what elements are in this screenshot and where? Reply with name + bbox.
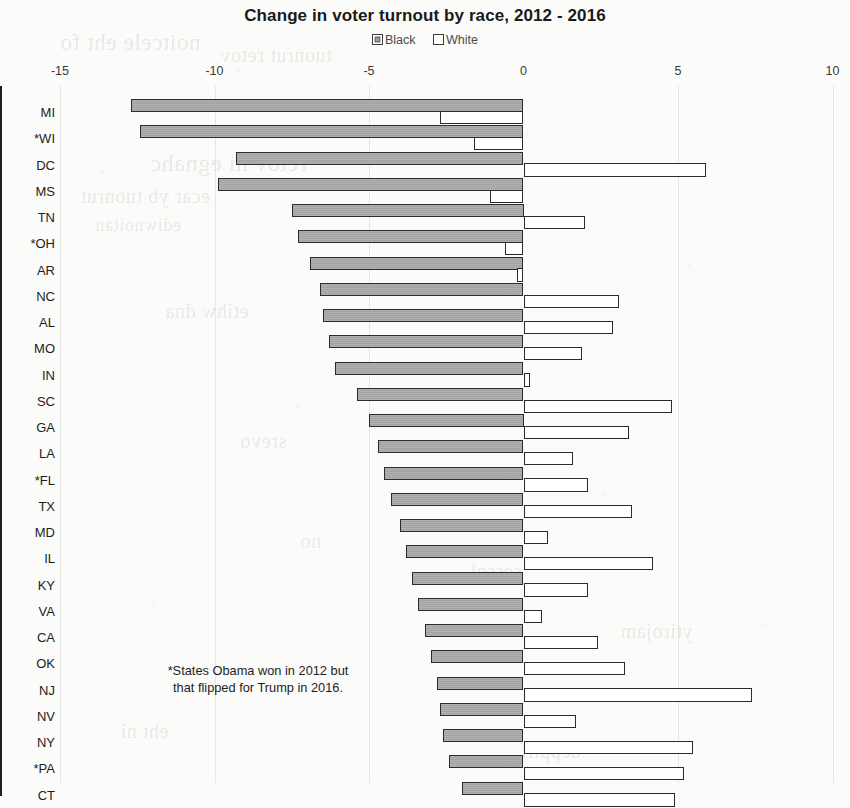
bar-black-CA: [425, 624, 524, 637]
bar-black-AL: [323, 309, 524, 322]
x-axis-tick-minus10: -10: [205, 64, 223, 78]
bar-white-NJ: [524, 688, 753, 701]
y-axis-label-TX: TX: [38, 500, 55, 513]
legend-swatch-black-icon: [372, 34, 383, 45]
bar-white-MS: [490, 190, 524, 203]
bar-row: AL: [0, 309, 850, 335]
chart-legend: Black White: [0, 33, 850, 47]
y-axis-label-GA: GA: [36, 421, 55, 434]
bar-white-DC: [524, 163, 706, 176]
bar-white-CT: [524, 793, 675, 806]
bar-white-star-FL: [524, 478, 589, 491]
bar-row: NY: [0, 729, 850, 755]
bar-white-MI: [440, 111, 523, 124]
x-axis-tick-minus5: -5: [363, 64, 374, 78]
bar-row: TX: [0, 493, 850, 519]
x-axis-tick-5: 5: [675, 64, 682, 78]
bar-black-KY: [412, 572, 523, 585]
bar-row: MO: [0, 335, 850, 361]
y-axis-label-LA: LA: [39, 447, 55, 460]
bar-white-KY: [524, 583, 589, 596]
bar-white-star-WI: [474, 137, 523, 150]
bar-row: MI: [0, 99, 850, 125]
bar-white-SC: [524, 400, 672, 413]
bar-black-star-FL: [384, 467, 523, 480]
y-axis-label-VA: VA: [39, 605, 55, 618]
bar-black-SC: [357, 388, 524, 401]
legend-label-white: White: [446, 33, 478, 47]
bar-black-NY: [443, 729, 523, 742]
bar-white-VA: [524, 610, 543, 623]
x-axis-tick-10: 10: [826, 64, 840, 78]
bar-white-NY: [524, 741, 694, 754]
bar-white-MO: [524, 347, 583, 360]
bar-row: *FL: [0, 467, 850, 493]
y-axis-label-AR: AR: [37, 264, 55, 277]
bar-black-CT: [462, 782, 524, 795]
y-axis-label-star-PA: *PA: [34, 762, 55, 775]
bar-black-NC: [320, 283, 524, 296]
bar-row: GA: [0, 414, 850, 440]
bar-white-NC: [524, 295, 620, 308]
chart-footnote-line-2: that flipped for Trump in 2016.: [118, 680, 398, 697]
bar-black-TN: [292, 204, 524, 217]
bar-black-VA: [418, 598, 523, 611]
bar-white-IL: [524, 557, 654, 570]
bar-black-LA: [378, 440, 523, 453]
bar-row: CT: [0, 782, 850, 808]
x-axis-tick-minus15: -15: [51, 64, 69, 78]
bar-white-star-OH: [505, 242, 524, 255]
bar-black-TX: [391, 493, 524, 506]
chart-title: Change in voter turnout by race, 2012 - …: [0, 6, 850, 26]
y-axis-label-NY: NY: [37, 736, 55, 749]
bar-black-GA: [369, 414, 524, 427]
y-axis-label-MO: MO: [34, 342, 55, 355]
y-axis-label-OK: OK: [36, 657, 55, 670]
bar-row: IN: [0, 362, 850, 388]
bar-black-IN: [335, 362, 523, 375]
bar-white-AR: [517, 268, 523, 281]
bar-row: MD: [0, 519, 850, 545]
bar-white-GA: [524, 426, 629, 439]
bar-row: NV: [0, 703, 850, 729]
bar-black-MO: [329, 335, 524, 348]
bar-row: *WI: [0, 125, 850, 151]
bar-row: VA: [0, 598, 850, 624]
bar-black-NJ: [437, 677, 524, 690]
bar-white-TX: [524, 505, 632, 518]
bar-white-CA: [524, 636, 598, 649]
chart-footnote-line-1: *States Obama won in 2012 but: [118, 663, 398, 680]
legend-label-black: Black: [385, 33, 416, 47]
y-axis-label-DC: DC: [36, 159, 55, 172]
bar-white-star-PA: [524, 767, 685, 780]
bar-row: KY: [0, 572, 850, 598]
chart-footnote: *States Obama won in 2012 but that flipp…: [118, 663, 398, 697]
bar-row: MS: [0, 178, 850, 204]
y-axis-label-NV: NV: [37, 710, 55, 723]
y-axis-label-CT: CT: [38, 789, 55, 802]
y-axis-label-SC: SC: [37, 395, 55, 408]
y-axis-label-MI: MI: [41, 106, 55, 119]
bar-row: *OH: [0, 230, 850, 256]
y-axis-label-NC: NC: [36, 290, 55, 303]
bar-row: LA: [0, 440, 850, 466]
bar-black-MD: [400, 519, 524, 532]
bar-black-DC: [236, 152, 523, 165]
bar-row: IL: [0, 545, 850, 571]
y-axis-label-TN: TN: [38, 211, 55, 224]
y-axis-label-star-FL: *FL: [35, 474, 55, 487]
legend-item-white: White: [433, 33, 478, 47]
bar-black-AR: [310, 257, 523, 270]
bar-white-TN: [524, 216, 586, 229]
y-axis-label-MS: MS: [36, 185, 56, 198]
bar-white-MD: [524, 531, 549, 544]
x-axis-tick-0: 0: [520, 64, 527, 78]
y-axis-label-AL: AL: [39, 316, 55, 329]
legend-swatch-white-icon: [433, 34, 444, 45]
y-axis-label-MD: MD: [35, 526, 55, 539]
y-axis-label-IN: IN: [42, 369, 55, 382]
bar-row: *PA: [0, 755, 850, 781]
bar-black-star-WI: [140, 125, 523, 138]
y-axis-label-NJ: NJ: [39, 684, 55, 697]
y-axis-label-star-WI: *WI: [34, 132, 55, 145]
